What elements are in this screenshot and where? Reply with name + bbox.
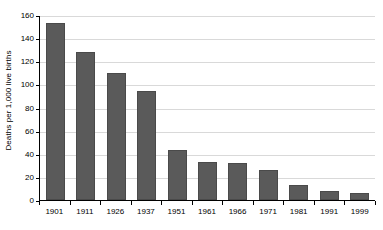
x-axis-tick-label: 1951 [161,206,192,220]
y-axis-tick-labels: 020406080100120140160 [16,0,37,210]
x-axis-tick-label: 1981 [283,206,314,220]
bar [259,170,278,200]
y-axis-tick-label: 60 [25,128,34,136]
x-axis-tick-mark [253,201,254,205]
bar-series [40,16,375,200]
x-axis-tick-mark [131,201,132,205]
x-axis-tick-label: 1971 [253,206,284,220]
bar-slot [101,16,131,200]
bar-slot [192,16,222,200]
x-axis-tick-label: 1901 [39,206,70,220]
bar [107,73,126,200]
bar-slot [70,16,100,200]
bar-slot [253,16,283,200]
bar [137,91,156,200]
x-axis-tick-mark [39,201,40,205]
plot-area [39,16,375,201]
x-axis-tick-mark [192,201,193,205]
bar-slot [223,16,253,200]
bar [350,193,369,200]
x-axis-tick-label: 1911 [70,206,101,220]
bar-slot [345,16,375,200]
bar [46,23,65,200]
y-axis-title-label: Deaths per 1,000 live births [4,50,13,150]
x-axis-tick-label: 1926 [100,206,131,220]
bar [289,185,308,200]
x-axis-tick-mark [70,201,71,205]
x-axis-tick-mark [161,201,162,205]
y-axis-title: Deaths per 1,000 live births [0,0,16,201]
x-axis-tick-label: 1991 [314,206,345,220]
x-axis-tick-mark [344,201,345,205]
x-axis-tick-label: 1961 [192,206,223,220]
bar [228,163,247,200]
bar [198,162,217,200]
bar [76,52,95,200]
bar-slot [40,16,70,200]
bar-chart: Deaths per 1,000 live births 02040608010… [0,0,383,230]
y-axis-tick-label: 100 [21,81,34,89]
x-axis-tick-label: 1937 [131,206,162,220]
x-axis-tick-labels: 1901191119261937195119611966197119811991… [39,206,375,220]
x-axis-tick-label: 1999 [344,206,375,220]
bar-slot [131,16,161,200]
x-axis-tick-mark [314,201,315,205]
x-axis-tick-label: 1966 [222,206,253,220]
y-axis-tick-label: 80 [25,105,34,113]
bar [320,191,339,200]
y-axis-tick-label: 140 [21,35,34,43]
x-axis-tick-mark [375,201,376,205]
x-axis-tick-mark [100,201,101,205]
bar-slot [284,16,314,200]
y-axis-tick-label: 20 [25,174,34,182]
bar [168,150,187,200]
bar-slot [162,16,192,200]
x-axis-tick-mark [222,201,223,205]
bar-slot [314,16,344,200]
x-axis-tick-mark [283,201,284,205]
y-axis-tick-label: 0 [30,197,34,205]
y-axis-tick-label: 120 [21,58,34,66]
y-axis-tick-label: 160 [21,12,34,20]
y-axis-tick-label: 40 [25,151,34,159]
